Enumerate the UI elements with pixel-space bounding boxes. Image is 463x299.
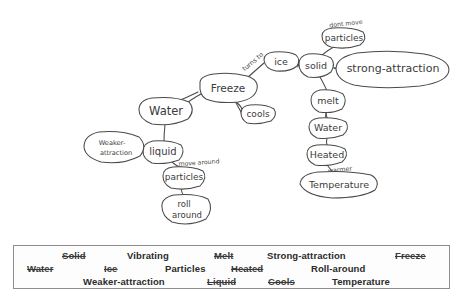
node-water-right-bubble: [309, 118, 347, 139]
edge-water-heated: [327, 138, 328, 145]
word-bank-item-weaker-attraction[interactable]: Weaker-attraction: [83, 276, 165, 287]
node-water-right[interactable]: Water: [309, 118, 347, 139]
edge-label-dont-move: dont move: [329, 18, 363, 28]
node-melt-bubble: [311, 90, 345, 113]
node-ice[interactable]: ice: [264, 52, 299, 71]
word-bank-item-liquid[interactable]: Liquid: [207, 276, 236, 287]
word-bank-item-ice[interactable]: Ice: [104, 263, 118, 274]
word-bank-item-temperature[interactable]: Temperature: [332, 276, 390, 287]
node-roll-around-bubble: [162, 195, 211, 224]
node-particles-solid-bubble: [322, 28, 365, 48]
node-heated-bubble: [307, 145, 346, 166]
concept-map-canvas[interactable]: Freeze ice solid dont move particles: [0, 0, 463, 238]
word-bank-row-2: Water Ice Particles Heated Roll-around: [14, 263, 449, 277]
word-bank-item-particles[interactable]: Particles: [165, 263, 206, 274]
concept-map-drawing: Freeze ice solid dont move particles: [0, 0, 463, 238]
node-weaker-attraction-bubble: [84, 132, 144, 163]
word-bank-item-vibrating[interactable]: Vibrating: [127, 250, 169, 261]
word-bank-item-melt[interactable]: Melt: [214, 250, 233, 261]
node-solid-bubble: [299, 54, 334, 78]
node-cools-bubble: [241, 105, 275, 124]
node-freeze[interactable]: Freeze: [200, 73, 257, 102]
node-water-left[interactable]: Water: [139, 98, 192, 125]
node-weaker-attraction[interactable]: Weaker- attraction Weaker-attraction: [0, 0, 144, 163]
node-strong-attraction-bubble: [336, 51, 449, 88]
word-bank-item-water[interactable]: Water: [27, 263, 54, 274]
edge-solid-melt: [320, 77, 327, 91]
edge-label-move-around: move around: [178, 157, 219, 167]
node-cools[interactable]: cools: [241, 105, 275, 124]
node-temperature[interactable]: Temperature: [300, 171, 377, 198]
concept-map-worksheet: Freeze ice solid dont move particles: [0, 0, 463, 299]
word-bank-item-solid[interactable]: Solid: [62, 250, 86, 261]
word-bank-item-freeze[interactable]: Freeze: [395, 250, 426, 261]
word-bank-row-3: Weaker-attraction Liquid Cools Temperatu…: [14, 276, 449, 290]
node-freeze-bubble: [200, 73, 257, 102]
word-bank-row-1: Solid Vibrating Melt Strong-attraction F…: [14, 250, 449, 264]
node-particles-liquid[interactable]: particles: [163, 167, 205, 189]
node-melt[interactable]: melt: [311, 90, 345, 113]
edge-label-turns-to: turns to: [241, 51, 265, 73]
word-bank-item-cools[interactable]: Cools: [268, 276, 295, 287]
word-bank[interactable]: Solid Vibrating Melt Strong-attraction F…: [13, 245, 450, 289]
node-particles-liquid-bubble: [163, 167, 205, 189]
node-particles-solid[interactable]: particles: [322, 28, 365, 48]
word-bank-item-roll-around[interactable]: Roll-around: [311, 263, 365, 274]
node-temperature-bubble: [300, 171, 377, 198]
word-bank-item-strong-attraction[interactable]: Strong-attraction: [267, 250, 346, 261]
node-solid[interactable]: solid: [299, 54, 334, 78]
node-strong-attraction[interactable]: strong-attraction: [336, 51, 449, 88]
word-bank-item-heated[interactable]: Heated: [231, 263, 263, 274]
node-liquid[interactable]: liquid: [143, 141, 183, 164]
edge-freeze-ice: [247, 63, 264, 78]
node-water-left-bubble: [139, 98, 192, 125]
node-liquid-bubble: [143, 141, 183, 164]
node-heated[interactable]: Heated: [307, 145, 346, 166]
edge-water-liquid: [164, 125, 165, 141]
node-ice-bubble: [264, 52, 299, 71]
